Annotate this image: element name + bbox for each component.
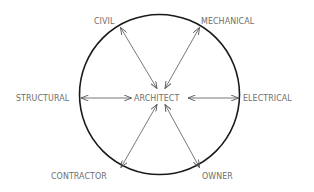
- node-label-architect: ARCHITECT: [134, 93, 179, 103]
- arrow-architect-mechanical: [165, 28, 200, 89]
- node-label-electrical: ELECTRICAL: [243, 93, 292, 103]
- node-label-mechanical: MECHANICAL: [201, 16, 254, 26]
- architect-relationship-diagram: CIVIL MECHANICAL STRUCTURAL ARCHITECT EL…: [0, 0, 314, 192]
- arrow-architect-owner: [165, 105, 200, 168]
- node-label-owner: OWNER: [202, 171, 233, 181]
- node-label-structural: STRUCTURAL: [16, 93, 69, 103]
- arrow-architect-civil: [121, 28, 158, 89]
- node-label-contractor: CONTRACTOR: [51, 171, 107, 181]
- node-label-civil: CIVIL: [94, 16, 114, 26]
- arrow-architect-contractor: [121, 105, 157, 168]
